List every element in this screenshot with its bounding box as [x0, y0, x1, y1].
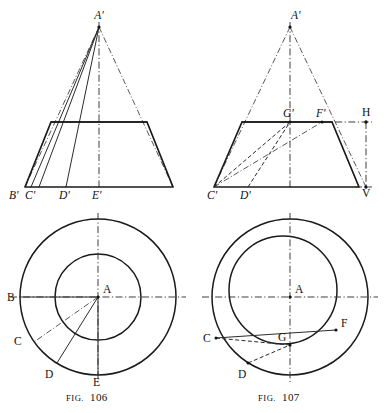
fig106-caption-number: 106 — [90, 391, 108, 403]
fig106-elevation: A' B' C' D' E' — [9, 9, 173, 201]
fig106-label-b-prime: B' — [9, 189, 19, 201]
fig107-caption: FIG. 107 — [258, 391, 300, 403]
fig107-chain-c-to-f — [214, 122, 322, 187]
fig107-caption-number: 107 — [282, 391, 300, 403]
fig106-label-c: C — [14, 335, 22, 347]
fig107-apex-point — [288, 25, 291, 28]
fig107-plan: A C D G F — [202, 213, 378, 382]
fig107-frustum-outline — [214, 122, 359, 187]
fig107-apex-label: A' — [290, 9, 301, 21]
figure-plate: A' B' C' D' E' — [0, 0, 386, 413]
figure-106: A' B' C' D' E' — [7, 9, 186, 403]
fig107-label-f: F — [341, 317, 347, 329]
fig107-label-c-prime: C' — [207, 189, 218, 201]
fig107-inner-circle — [229, 236, 337, 344]
fig107-chord-cf — [216, 330, 336, 338]
fig107-label-h: H — [362, 106, 370, 118]
engineering-drawing-svg: A' B' C' D' E' — [0, 0, 386, 413]
fig107-label-f-prime: F' — [315, 107, 326, 119]
fig107-point-c — [215, 337, 218, 340]
fig107-label-v: V — [362, 187, 371, 199]
fig106-construction-to-d — [66, 27, 99, 187]
fig107-elevation: A' G' F' H V C' D' — [207, 9, 372, 201]
fig106-caption-prefix: FIG. — [66, 393, 84, 403]
fig106-radius-ad — [57, 297, 98, 363]
fig107-label-g: G — [278, 331, 286, 343]
fig106-plan: A B C D E — [7, 213, 186, 388]
fig107-point-g — [288, 343, 291, 346]
fig107-label-g-prime: G' — [283, 107, 294, 119]
fig107-dashed-dg — [248, 345, 290, 363]
fig107-label-a: A — [295, 283, 304, 295]
fig106-caption: FIG. 106 — [66, 391, 108, 403]
fig106-apex-chain-left — [25, 27, 99, 187]
figure-107: A' G' F' H V C' D' — [202, 9, 378, 403]
fig106-construction-to-c — [39, 27, 99, 187]
fig106-label-b: B — [7, 291, 15, 303]
fig107-point-g-prime — [289, 121, 292, 124]
fig107-label-c: C — [203, 332, 211, 344]
fig107-apex-chain-left — [214, 27, 290, 187]
fig107-centre-point — [289, 296, 292, 299]
fig107-dashed-c-to-g — [214, 122, 290, 187]
fig107-label-d: D — [238, 368, 246, 380]
fig107-label-d-prime: D' — [239, 189, 251, 201]
fig106-apex-point — [97, 25, 100, 28]
fig106-construction-to-b — [31, 27, 99, 187]
fig107-point-d — [247, 362, 250, 365]
fig107-point-f-prime — [321, 121, 324, 124]
fig107-point-h — [364, 120, 367, 123]
fig106-apex-chain-right — [99, 27, 173, 187]
fig106-label-c-prime: C' — [25, 189, 36, 201]
fig106-label-a: A — [103, 283, 112, 295]
fig106-label-e-prime: E' — [91, 189, 102, 201]
fig106-apex-label: A' — [93, 9, 104, 21]
fig106-label-d: D — [45, 368, 53, 380]
fig106-label-e: E — [93, 376, 100, 388]
fig106-radius-ac — [34, 297, 98, 342]
fig106-centre-point — [97, 296, 100, 299]
fig107-apex-chain-right — [290, 27, 366, 187]
fig107-point-f — [334, 328, 337, 331]
fig107-dashed-d-to-g — [248, 122, 290, 187]
fig107-caption-prefix: FIG. — [258, 393, 276, 403]
fig106-label-d-prime: D' — [58, 189, 70, 201]
